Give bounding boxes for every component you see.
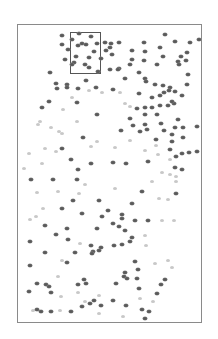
dot-marker [155,63,159,66]
dot-marker [133,219,137,222]
dot-marker [137,92,141,95]
dot-marker [123,77,127,80]
dot-marker [35,191,39,194]
dot-marker [135,277,139,280]
dot-marker [95,140,99,143]
dot-marker [186,73,190,76]
dot-marker [160,171,164,174]
dot-marker [92,299,96,302]
dot-marker [128,240,132,243]
dot-marker [176,118,180,121]
dot-marker [49,126,53,129]
dot-marker [76,168,80,171]
dot-marker [124,162,128,165]
dot-marker [58,309,62,312]
dot-marker [54,82,58,85]
dot-marker [84,282,88,285]
dot-marker [69,310,73,313]
dot-marker [166,259,170,262]
dot-marker [89,244,93,247]
dot-marker [100,215,104,218]
dot-marker [74,55,78,58]
dot-marker [130,58,134,61]
dot-marker [138,130,142,133]
dot-marker [83,183,87,186]
dot-marker [47,285,51,288]
dot-marker [130,202,134,205]
dot-marker [36,123,40,126]
dot-marker [130,49,134,52]
dot-marker [136,268,140,271]
dot-marker [123,271,127,274]
dot-marker [59,295,63,298]
dot-marker [158,104,162,107]
dot-marker [144,244,148,247]
dot-marker [111,222,115,225]
dot-marker [125,277,129,280]
dot-marker [78,242,82,245]
dot-marker [155,292,159,295]
dot-marker [100,91,104,94]
dot-marker [157,197,161,200]
dot-marker [156,153,160,156]
dot-marker [87,56,91,59]
dot-marker [185,83,189,86]
dot-marker [147,310,151,313]
dot-marker [119,129,123,132]
dot-marker [130,236,134,239]
dot-marker [69,158,73,161]
dot-marker [76,291,80,294]
dot-marker [174,192,178,195]
dot-marker [142,41,146,44]
dot-marker [70,63,74,66]
dot-marker [123,102,127,105]
dot-marker [43,251,47,254]
dot-marker [162,129,166,132]
dot-marker [118,91,122,94]
dot-marker [94,86,98,89]
dot-marker [109,42,113,45]
dot-marker [158,46,162,49]
dot-marker [120,243,124,246]
dot-marker [97,199,101,202]
dot-marker [166,198,170,201]
dot-marker [71,199,75,202]
dot-marker [167,89,171,92]
dot-marker [174,155,178,158]
dot-marker [70,96,74,99]
dot-marker [117,41,121,44]
dot-marker [174,175,178,178]
dot-marker [133,260,137,263]
dot-marker [120,217,124,220]
dot-marker [153,262,157,265]
dot-marker [153,83,157,86]
dot-marker [150,96,154,99]
dot-marker [195,150,199,153]
dot-marker [181,126,185,129]
dot-marker [143,317,147,320]
dot-marker [43,147,47,150]
dot-marker [40,162,44,165]
dot-marker [143,50,147,53]
dot-marker [56,275,60,278]
dot-marker [161,84,165,87]
dot-marker [89,35,93,38]
dot-marker [135,107,139,110]
dot-marker [138,297,142,300]
dot-marker [143,106,147,109]
dot-marker [75,120,79,123]
dot-marker [142,59,146,62]
dot-marker [168,173,172,176]
dot-marker [123,229,127,232]
dot-marker [92,50,96,53]
dot-marker [34,215,38,218]
dot-marker [113,146,117,149]
dot-marker [76,87,80,90]
dot-marker [77,32,81,35]
dot-marker [180,94,184,97]
dot-marker [95,42,99,45]
dot-marker [41,207,45,210]
dot-marker [163,33,167,36]
dot-marker [65,86,69,89]
dot-marker [28,264,32,267]
